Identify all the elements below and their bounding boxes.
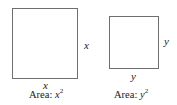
caption-prefix: Area: <box>29 89 55 100</box>
label-y-bottom: y <box>131 71 136 82</box>
caption-area-y: Area: y2 <box>114 89 148 100</box>
label-y-right: y <box>164 36 169 47</box>
square-x <box>12 8 78 79</box>
caption-area-x: Area: x2 <box>29 89 63 100</box>
label-x-right: x <box>84 40 89 51</box>
caption-prefix: Area: <box>114 89 140 100</box>
caption-exp: 2 <box>60 87 64 95</box>
caption-exp: 2 <box>145 87 149 95</box>
square-y <box>109 16 159 69</box>
